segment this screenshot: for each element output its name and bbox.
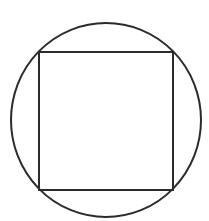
diagram-canvas [0, 0, 209, 221]
background [0, 0, 209, 221]
